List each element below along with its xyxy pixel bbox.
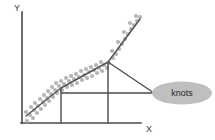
scatter-point bbox=[79, 69, 83, 73]
y-axis-label: Y bbox=[14, 3, 20, 13]
scatter-point bbox=[69, 74, 73, 78]
scatter-point bbox=[110, 49, 114, 53]
scatter-point bbox=[84, 67, 88, 71]
scatter-point bbox=[46, 89, 50, 93]
scatter-point bbox=[128, 21, 132, 25]
scatter-point bbox=[38, 97, 42, 101]
scatter-point bbox=[42, 93, 46, 97]
scatter-point bbox=[95, 71, 99, 75]
scatter-points-group bbox=[24, 14, 142, 123]
scatter-point bbox=[24, 110, 28, 114]
scatter-point bbox=[80, 78, 84, 82]
scatter-point bbox=[100, 69, 104, 73]
spline-knots-diagram: knots Y X bbox=[0, 0, 215, 140]
scatter-point bbox=[90, 74, 94, 78]
scatter-point bbox=[99, 60, 103, 64]
knot-leader-line bbox=[108, 62, 154, 93]
scatter-point bbox=[116, 40, 120, 44]
figure-canvas: knots Y X bbox=[0, 0, 215, 140]
scatter-point bbox=[35, 111, 39, 115]
scatter-point bbox=[89, 65, 93, 69]
x-axis-label: X bbox=[146, 124, 152, 134]
scatter-point bbox=[94, 63, 98, 67]
knots-label: knots bbox=[171, 88, 193, 98]
scatter-point bbox=[75, 81, 79, 85]
knots-annotation[interactable]: knots bbox=[152, 82, 212, 105]
scatter-point bbox=[134, 14, 138, 18]
scatter-point bbox=[54, 81, 58, 85]
scatter-point bbox=[85, 76, 89, 80]
scatter-point bbox=[50, 85, 54, 89]
scatter-point bbox=[25, 119, 29, 123]
scatter-point bbox=[64, 76, 68, 80]
scatter-point bbox=[43, 103, 47, 107]
scatter-point bbox=[74, 72, 78, 76]
scatter-point bbox=[59, 79, 63, 83]
scatter-point bbox=[39, 107, 43, 111]
scatter-point bbox=[29, 105, 33, 109]
scatter-point bbox=[31, 116, 35, 120]
scatter-point bbox=[122, 30, 126, 34]
scatter-point bbox=[33, 101, 37, 105]
